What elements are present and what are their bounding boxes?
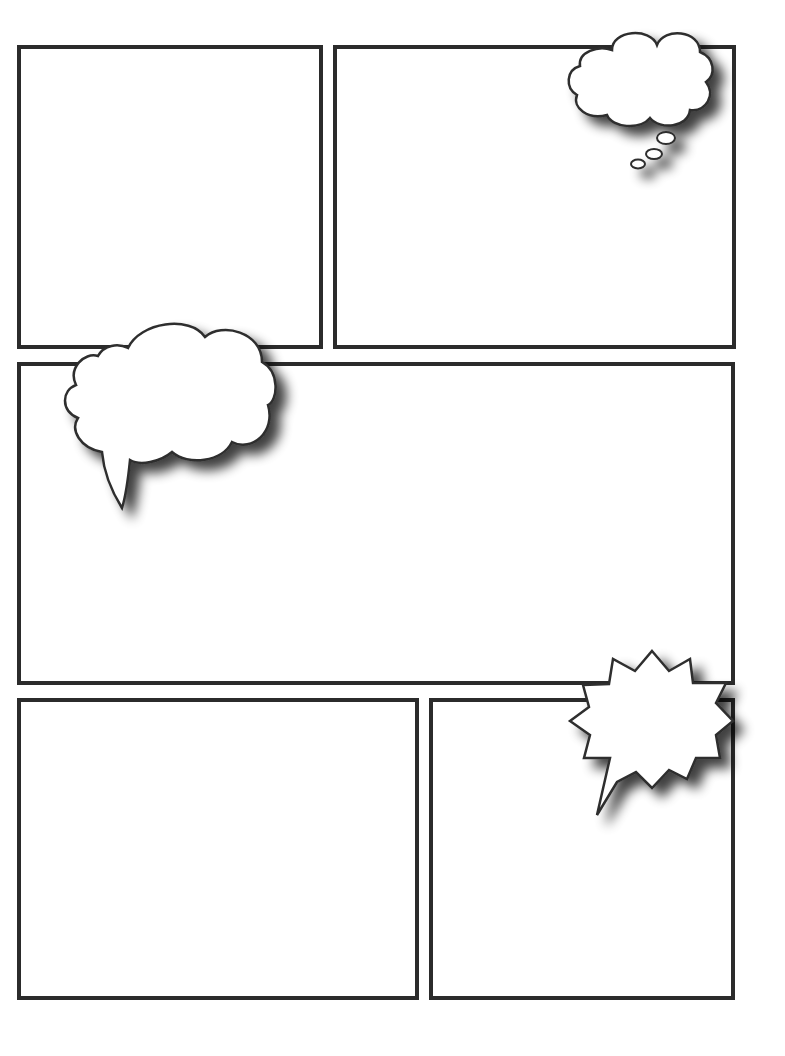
speech-cloud-icon xyxy=(65,324,276,508)
starburst-balloon-icon xyxy=(570,651,733,815)
balloon-layer xyxy=(0,0,785,1056)
thought-bubble-icon xyxy=(569,33,713,168)
